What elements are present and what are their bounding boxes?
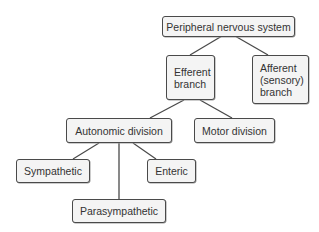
node-label: Sympathetic — [24, 165, 82, 177]
edge-autonomic-sympathetic — [73, 143, 99, 159]
node-label-line: Afferent — [260, 62, 304, 74]
node-sympathetic: Sympathetic — [16, 159, 90, 183]
node-label: Motor division — [202, 125, 267, 137]
node-parasympathetic: Parasympathetic — [72, 199, 166, 223]
node-label: Autonomic division — [75, 125, 163, 137]
node-label: Peripheral nervous system — [166, 21, 290, 33]
node-motor-division: Motor division — [194, 118, 275, 143]
node-label: Parasympathetic — [80, 205, 158, 217]
edge-autonomic-enteric — [133, 143, 156, 159]
edge-pns-efferent — [190, 36, 222, 55]
node-efferent-branch: Efferent branch — [166, 55, 215, 100]
node-afferent-branch: Afferent (sensory) branch — [252, 55, 309, 104]
node-label-line: (sensory) — [260, 74, 304, 86]
node-label-line: branch — [174, 78, 211, 90]
node-peripheral-nervous-system: Peripheral nervous system — [162, 16, 295, 37]
node-label: Enteric — [155, 165, 188, 177]
edge-efferent-autonomic — [150, 100, 184, 118]
node-autonomic-division: Autonomic division — [66, 118, 172, 143]
edge-efferent-motor — [200, 100, 232, 118]
edge-pns-afferent — [235, 36, 268, 55]
node-enteric: Enteric — [147, 159, 196, 183]
node-label-line: Efferent — [174, 66, 211, 78]
node-label-line: branch — [260, 86, 304, 98]
